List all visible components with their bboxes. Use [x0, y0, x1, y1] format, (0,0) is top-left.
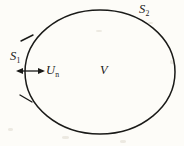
label-normal-velocity-un: Un — [46, 64, 59, 77]
arrow-head-left-icon — [16, 68, 23, 74]
segment-tick-upper-icon — [21, 35, 33, 41]
label-s2-subscript: 2 — [146, 9, 150, 18]
label-boundary-segment-s1: S1 — [10, 50, 20, 63]
figure-container: S1 S2 Un V — [0, 0, 184, 146]
label-s1-symbol: S — [10, 49, 16, 63]
arrow-head-right-icon — [38, 68, 45, 74]
figure-drawing — [0, 0, 184, 146]
label-v-symbol: V — [100, 63, 108, 77]
label-volume-v: V — [100, 64, 108, 77]
label-s2-symbol: S — [139, 2, 145, 16]
label-un-symbol: U — [46, 63, 55, 77]
label-un-subscript: n — [55, 70, 59, 79]
label-s1-subscript: 1 — [17, 56, 21, 65]
label-boundary-outer-s2: S2 — [139, 3, 149, 16]
